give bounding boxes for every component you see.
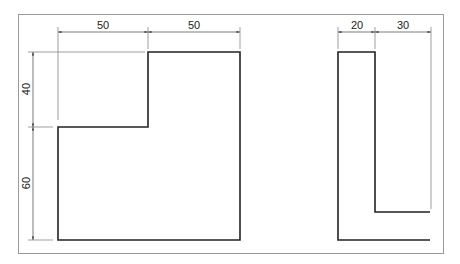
front-view-dimension-lines bbox=[33, 32, 240, 240]
technical-drawing: 50 50 40 60 20 30 bbox=[0, 0, 460, 264]
dim-front-top-right: 50 bbox=[188, 19, 200, 31]
side-view-outline bbox=[338, 52, 430, 240]
drawing-frame bbox=[19, 15, 444, 254]
front-view-outline bbox=[58, 52, 240, 240]
dim-side-top-right: 30 bbox=[397, 19, 409, 31]
dim-side-top-left: 20 bbox=[351, 19, 363, 31]
side-view-extension-lines bbox=[338, 27, 431, 209]
dim-front-left-upper: 40 bbox=[20, 83, 32, 95]
front-view-extension-lines bbox=[28, 27, 240, 240]
dim-front-left-lower: 60 bbox=[20, 177, 32, 189]
dim-front-top-left: 50 bbox=[97, 19, 109, 31]
